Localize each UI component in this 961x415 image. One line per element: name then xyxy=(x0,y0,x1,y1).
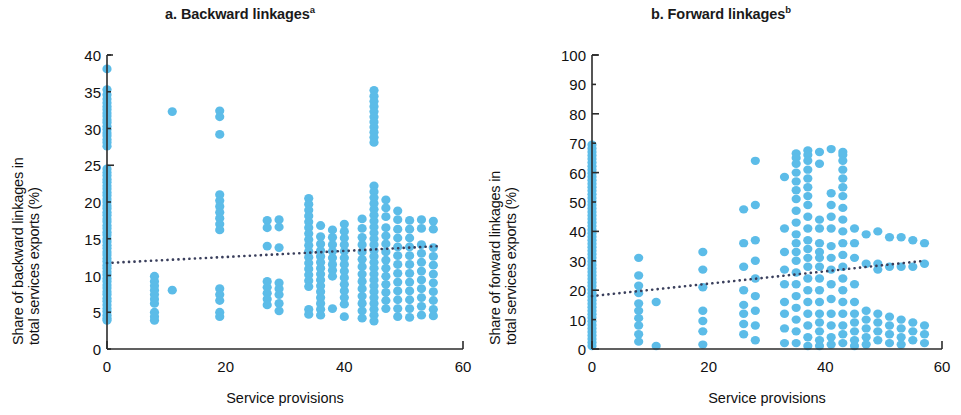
scatter-point xyxy=(897,333,906,341)
x-tick-label: 40 xyxy=(319,359,369,374)
scatter-point xyxy=(150,299,159,308)
scatter-point xyxy=(405,251,414,260)
scatter-point xyxy=(838,157,847,165)
scatter-point xyxy=(780,298,789,306)
scatter-point xyxy=(838,174,847,182)
scatter-point xyxy=(897,340,906,348)
y-tick-label: 30 xyxy=(63,122,101,137)
scatter-point xyxy=(792,218,801,226)
scatter-point xyxy=(803,286,812,294)
scatter-point xyxy=(792,280,801,288)
scatter-point xyxy=(792,160,801,168)
scatter-point xyxy=(803,245,812,253)
scatter-point xyxy=(304,310,313,319)
scatter-point xyxy=(908,262,917,270)
scatter-point xyxy=(815,262,824,270)
scatter-point xyxy=(274,290,283,299)
scatter-point xyxy=(751,201,760,209)
scatter-point xyxy=(751,236,760,244)
scatter-point xyxy=(405,295,414,304)
scatter-point xyxy=(429,217,438,226)
scatter-point xyxy=(381,272,390,281)
scatter-point xyxy=(634,330,643,338)
x-tick-label: 0 xyxy=(82,359,132,374)
scatter-point xyxy=(328,304,337,313)
scatter-point xyxy=(803,201,812,209)
scatter-point xyxy=(815,274,824,282)
scatter-point xyxy=(780,265,789,273)
scatter-point xyxy=(862,307,871,315)
scatter-point xyxy=(838,165,847,173)
scatter-point xyxy=(698,265,707,273)
scatter-point xyxy=(780,324,789,332)
scatter-point xyxy=(803,174,812,182)
panel-b-data-points xyxy=(587,140,929,350)
scatter-point xyxy=(908,318,917,326)
scatter-point xyxy=(393,312,402,321)
scatter-point xyxy=(897,233,906,241)
scatter-point xyxy=(405,287,414,296)
scatter-point xyxy=(862,230,871,238)
scatter-point xyxy=(739,286,748,294)
scatter-point xyxy=(803,165,812,173)
scatter-point xyxy=(417,311,426,320)
scatter-point xyxy=(827,295,836,303)
scatter-point xyxy=(429,252,438,261)
scatter-point xyxy=(838,215,847,223)
scatter-point xyxy=(792,339,801,347)
scatter-point xyxy=(862,324,871,332)
scatter-point xyxy=(827,242,836,250)
scatter-point xyxy=(838,286,847,294)
scatter-point xyxy=(803,192,812,200)
scatter-point xyxy=(792,304,801,312)
scatter-point xyxy=(405,216,414,225)
scatter-point xyxy=(908,327,917,335)
scatter-point xyxy=(739,330,748,338)
scatter-point xyxy=(417,258,426,267)
scatter-point xyxy=(417,267,426,276)
panel-b-x-axis-label: Service provisions xyxy=(592,390,942,406)
scatter-point xyxy=(873,227,882,235)
scatter-point xyxy=(751,257,760,265)
scatter-point xyxy=(405,313,414,322)
scatter-point xyxy=(862,333,871,341)
scatter-point xyxy=(634,254,643,262)
scatter-point xyxy=(815,298,824,306)
scatter-point xyxy=(429,296,438,305)
scatter-point xyxy=(920,239,929,247)
x-tick-label: 40 xyxy=(800,359,850,374)
scatter-point xyxy=(803,310,812,318)
x-tick-label: 60 xyxy=(917,359,961,374)
scatter-point xyxy=(405,269,414,278)
scatter-point xyxy=(381,239,390,248)
scatter-point xyxy=(792,268,801,276)
scatter-point xyxy=(405,260,414,269)
scatter-point xyxy=(393,242,402,251)
scatter-point xyxy=(393,234,402,243)
scatter-point xyxy=(358,215,367,224)
scatter-point xyxy=(792,168,801,176)
scatter-point xyxy=(393,278,402,287)
scatter-point xyxy=(780,339,789,347)
scatter-point xyxy=(827,280,836,288)
scatter-point xyxy=(803,321,812,329)
scatter-point xyxy=(393,269,402,278)
scatter-point xyxy=(885,339,894,347)
scatter-point xyxy=(739,310,748,318)
scatter-point xyxy=(827,145,836,153)
scatter-point xyxy=(381,223,390,232)
scatter-point xyxy=(873,336,882,344)
scatter-point xyxy=(827,340,836,348)
scatter-point xyxy=(381,203,390,212)
scatter-point xyxy=(792,186,801,194)
y-tick-label: 0 xyxy=(548,342,586,357)
scatter-point xyxy=(739,239,748,247)
scatter-point xyxy=(263,301,272,310)
scatter-point xyxy=(634,282,643,290)
scatter-point xyxy=(215,226,224,235)
scatter-point xyxy=(698,248,707,256)
scatter-point xyxy=(792,257,801,265)
scatter-point xyxy=(369,138,378,147)
scatter-point xyxy=(393,295,402,304)
scatter-point xyxy=(393,260,402,269)
